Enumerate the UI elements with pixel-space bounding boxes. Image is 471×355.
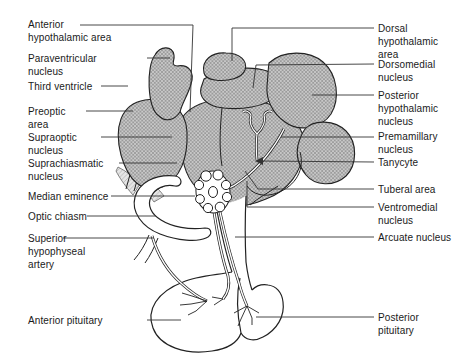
label-ventromedial-nucleus: Ventromedial nucleus (378, 201, 470, 227)
label-optic-chiasm: Optic chiasm (28, 210, 128, 223)
label-posterior-pituitary: Posterior pituitary (378, 311, 470, 337)
label-premamillary-nucleus: Premamillary nucleus (378, 130, 470, 156)
label-supraoptic-nucleus: Supraoptic nucleus (28, 131, 128, 157)
label-suprachiasmatic-nucleus: Suprachiasmatic nucleus (28, 157, 128, 183)
label-tuberal-area: Tuberal area (378, 183, 470, 196)
label-dorsomedial-nucleus: Dorsomedial nucleus (378, 58, 470, 84)
hypothalamus-diagram: Anterior hypothalamic area Paraventricul… (0, 0, 471, 355)
dorsal-top-lobe (204, 53, 246, 81)
label-preoptic-area: Preoptic area (28, 105, 128, 131)
premamillary-lobe (297, 122, 354, 184)
label-anterior-hypothalamic-area: Anterior hypothalamic area (28, 18, 128, 44)
label-arcuate-nucleus: Arcuate nucleus (378, 231, 470, 244)
label-dorsal-hypothalamic-area: Dorsal hypothalamic area (378, 22, 470, 61)
paraventricular-lobe (149, 48, 192, 120)
label-posterior-hypothalamic-nucleus: Posterior hypothalamic nucleus (378, 89, 470, 128)
label-tanycyte: Tanycyte (378, 156, 470, 169)
label-paraventricular-nucleus: Paraventricular nucleus (28, 52, 128, 78)
label-superior-hypophyseal-artery: Superior hypophyseal artery (28, 232, 128, 271)
label-third-ventricle: Third ventricle (28, 80, 128, 93)
label-median-eminence: Median eminence (28, 190, 128, 203)
label-anterior-pituitary: Anterior pituitary (28, 314, 138, 327)
